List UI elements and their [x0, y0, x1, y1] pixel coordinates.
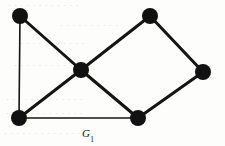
edge-top-right-to-right — [150, 16, 203, 72]
edge-center-to-bottom-right — [81, 70, 138, 118]
graph-label-subscript: 1 — [90, 135, 94, 144]
edge-center-to-top-right — [81, 16, 150, 70]
bottom-left-vertex[interactable] — [11, 110, 27, 126]
right-vertex[interactable] — [195, 64, 211, 80]
top-right-vertex[interactable] — [142, 8, 158, 24]
graph-canvas — [0, 0, 225, 146]
graph-edges-group — [19, 16, 203, 118]
bottom-right-vertex[interactable] — [130, 110, 146, 126]
center-vertex[interactable] — [73, 62, 89, 78]
edge-top-left-to-bottom-left — [19, 16, 20, 118]
graph-label-main: G — [82, 127, 90, 139]
edge-top-left-to-center — [20, 16, 81, 70]
graph-figure: · · · · · · · · · · · · · · · · · · · · … — [0, 0, 225, 146]
graph-label: G1 — [82, 128, 94, 142]
top-left-vertex[interactable] — [12, 8, 28, 24]
edge-center-to-bottom-left — [19, 70, 81, 118]
edge-right-to-bottom-right — [138, 72, 203, 118]
graph-vertices-group — [11, 8, 211, 126]
